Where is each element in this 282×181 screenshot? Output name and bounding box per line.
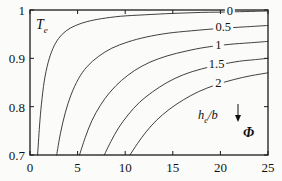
curve-label-0.5: 0.5 [213,21,233,34]
x-tick-label: 0 [27,161,34,174]
x-tick-label: 15 [166,161,179,174]
curve-label-2: 2 [213,77,223,90]
series-variable-annotation: he/b [198,108,218,125]
curve-1 [80,41,269,155]
chart-figure: 1 0.9 0.8 0.7 0 5 10 15 20 25 0 0.5 1 1.… [0,0,282,181]
x-tick-label: 5 [74,161,81,174]
down-arrow-icon [233,104,243,122]
curve-label-1.5: 1.5 [207,58,227,71]
y-tick-label: 1 [19,4,26,17]
curve-0.5 [57,25,268,155]
x-axis-label: Φ [243,125,254,141]
y-axis-label: Te [36,17,48,35]
y-tick-label: 0.9 [9,52,25,65]
x-tick-label: 25 [262,161,275,174]
y-tick-label: 0.8 [9,101,25,114]
x-tick-label: 20 [214,161,227,174]
curve-label-1: 1 [213,39,223,52]
curve-label-0: 0 [225,5,235,18]
curve-0 [38,11,268,155]
data-curves [38,11,268,155]
x-tick-label: 10 [119,161,132,174]
y-tick-label: 0.7 [9,149,25,162]
